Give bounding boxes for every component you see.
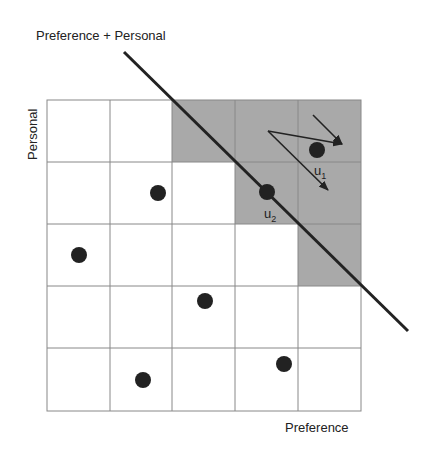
x-axis-label: Preference	[285, 420, 349, 435]
data-point	[197, 293, 213, 309]
data-point	[71, 247, 87, 263]
point-u1	[309, 142, 325, 158]
data-point	[150, 185, 166, 201]
title-label: Preference + Personal	[36, 28, 166, 43]
diagram-canvas: Preference + Personal Preference Persona…	[0, 0, 435, 451]
data-point	[276, 356, 292, 372]
data-point	[135, 372, 151, 388]
point-u2	[259, 184, 275, 200]
y-axis-label: Personal	[25, 109, 40, 160]
